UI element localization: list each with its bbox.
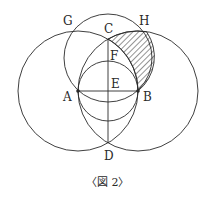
point-b-dot [136, 89, 140, 93]
label-a: A [62, 90, 72, 104]
label-d: D [104, 149, 114, 163]
label-f: F [110, 49, 118, 63]
geometry-figure: G H C F E A B D 〈図 2〉 [0, 0, 209, 202]
label-g: G [63, 14, 73, 28]
figure-caption: 〈図 2〉 [86, 176, 130, 189]
point-a-dot [76, 89, 80, 93]
label-b: B [143, 90, 152, 104]
label-h: H [139, 14, 149, 28]
label-e: E [111, 77, 120, 91]
label-c: C [104, 22, 113, 36]
